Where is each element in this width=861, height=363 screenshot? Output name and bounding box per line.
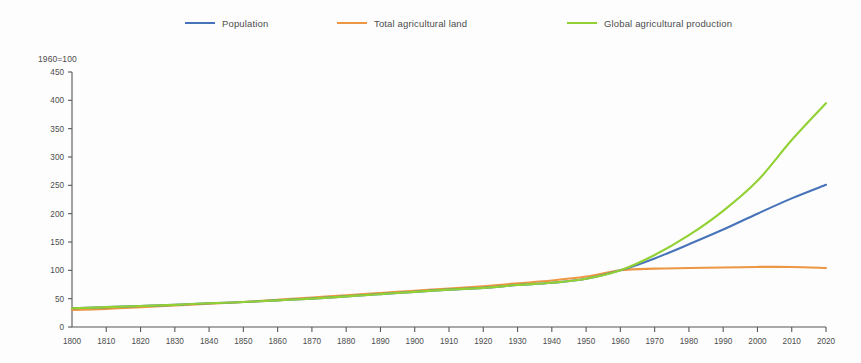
x-tick-label: 1850 xyxy=(234,337,253,346)
chart-figure: Population Total agricultural land Globa… xyxy=(0,0,861,363)
x-tick-label: 1970 xyxy=(646,337,665,346)
x-tick-label: 2010 xyxy=(783,337,802,346)
y-tick-label: 450 xyxy=(50,68,64,77)
x-axis-ticks: 1800181018201830184018501860187018801890… xyxy=(63,327,836,346)
y-tick-label: 350 xyxy=(50,125,64,134)
x-tick-label: 1990 xyxy=(714,337,733,346)
x-tick-label: 1820 xyxy=(131,337,150,346)
y-axis-ticks: 050100150200250300350400450 xyxy=(50,68,72,332)
x-tick-label: 1840 xyxy=(200,337,219,346)
x-tick-label: 1830 xyxy=(166,337,185,346)
x-tick-label: 1860 xyxy=(269,337,288,346)
y-tick-label: 250 xyxy=(50,181,64,190)
x-tick-label: 1950 xyxy=(577,337,596,346)
y-tick-label: 400 xyxy=(50,96,64,105)
series-line-global-agricultural-production xyxy=(72,103,826,308)
x-tick-label: 1880 xyxy=(337,337,356,346)
x-tick-label: 1810 xyxy=(97,337,116,346)
data-series-group xyxy=(72,103,826,310)
x-tick-label: 2020 xyxy=(817,337,836,346)
x-tick-label: 1890 xyxy=(371,337,390,346)
y-tick-label: 100 xyxy=(50,266,64,275)
y-tick-label: 0 xyxy=(59,323,64,332)
y-tick-label: 50 xyxy=(55,295,65,304)
x-tick-label: 1960 xyxy=(611,337,630,346)
y-tick-label: 300 xyxy=(50,153,64,162)
x-tick-label: 1920 xyxy=(474,337,493,346)
x-tick-label: 1940 xyxy=(543,337,562,346)
y-tick-label: 200 xyxy=(50,210,64,219)
x-tick-label: 1930 xyxy=(508,337,527,346)
plot-area: 050100150200250300350400450 180018101820… xyxy=(0,0,861,363)
x-tick-label: 1800 xyxy=(63,337,82,346)
y-tick-label: 150 xyxy=(50,238,64,247)
x-tick-label: 1910 xyxy=(440,337,459,346)
x-tick-label: 1870 xyxy=(303,337,322,346)
chart-svg: 050100150200250300350400450 180018101820… xyxy=(0,0,861,363)
x-tick-label: 1900 xyxy=(406,337,425,346)
x-tick-label: 2000 xyxy=(748,337,767,346)
x-tick-label: 1980 xyxy=(680,337,699,346)
